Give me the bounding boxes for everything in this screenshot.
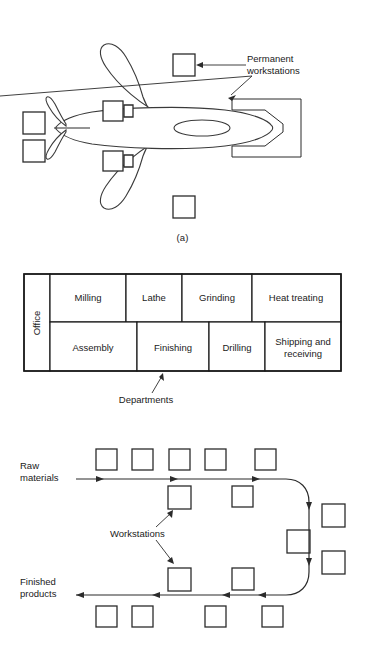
figure-a-caption: (a) [0,232,365,243]
annotation-line-2: workstations [246,65,300,76]
figure-c-canvas: Raw materials Finished products Workstat… [0,420,365,662]
finished-products-line2: products [20,588,57,599]
permanent-workstations-annotation: Permanent workstations [0,53,300,101]
arrowhead [167,557,174,564]
arrowhead [252,476,260,482]
finished-products-line1: Finished [20,576,56,587]
arrowhead [228,95,236,101]
workstation-box[interactable] [23,140,45,162]
annotation-line-1: Permanent [247,53,294,64]
finished-products-label: Finished products [20,576,57,599]
workstation-row-top [96,449,276,470]
workstation-box[interactable] [322,504,345,527]
department-label-heat-treating: Heat treating [269,292,323,303]
workstation-box[interactable] [232,486,253,507]
department-label-grinding: Grinding [199,292,235,303]
arrowhead [167,510,173,518]
workstation-box[interactable] [96,449,117,470]
workstations-annotation: Workstations [110,510,174,564]
workstation-box[interactable] [262,606,283,627]
workstation-column-right [287,504,345,574]
workstation-box[interactable] [205,606,226,627]
raw-materials-line1: Raw [20,460,39,471]
workstation-box[interactable] [103,151,123,171]
figure-c-product-layout: Raw materials Finished products Workstat… [0,420,365,662]
workstation-box[interactable] [255,449,276,470]
department-label-shipping-line1: Shipping and [275,336,330,347]
arrowhead [222,592,230,598]
arrowhead [152,592,160,598]
department-label-milling: Milling [75,292,102,303]
arrowhead [258,592,266,598]
arrowhead [96,476,104,482]
arrowhead [306,558,312,566]
workstation-box[interactable] [232,568,254,590]
workstation-box[interactable] [168,568,191,591]
workstation-box[interactable] [169,449,190,470]
workstation-box[interactable] [103,101,123,121]
workstation-row-inner-upper [168,486,253,509]
department-label-drilling: Drilling [222,342,251,353]
annotation-workstations: Workstations [110,528,165,539]
department-label-lathe: Lathe [142,292,166,303]
department-label-finishing: Finishing [154,342,192,353]
workstation-box[interactable] [96,606,117,627]
workstation-box[interactable] [287,530,310,553]
annotation-departments: Departments [119,394,174,405]
workstation-box[interactable] [168,486,191,509]
department-label-assembly: Assembly [72,342,113,353]
figure-a-fixed-position-layout: Permanent workstations (a) [0,0,365,255]
department-label-office: Office [31,311,42,336]
department-label-shipping-line2: receiving [284,348,322,359]
figure-b-process-layout: Office Milling Lathe Grinding Heat treat… [0,255,365,420]
departments-annotation: Departments [119,373,174,405]
raw-materials-label: Raw materials [20,460,59,483]
workstation-box[interactable] [322,551,345,574]
raw-materials-line2: materials [20,472,59,483]
figure-b-canvas: Office Milling Lathe Grinding Heat treat… [0,255,365,420]
workstation-box[interactable] [173,54,195,76]
arrowhead [196,62,203,68]
arrowhead [170,476,178,482]
arrowhead [306,502,312,510]
figure-a-canvas: Permanent workstations [0,0,365,255]
workstation-box[interactable] [173,196,195,218]
workstation-box[interactable] [132,449,153,470]
workstation-connector[interactable] [124,105,133,117]
workstation-box[interactable] [23,112,45,134]
workstation-box[interactable] [205,449,226,470]
workstation-row-bottom [96,606,283,627]
arrowhead [76,592,84,598]
workstation-connector[interactable] [124,155,133,167]
workstation-row-inner-lower [168,568,254,591]
aircraft-outline [46,44,273,210]
workstation-box[interactable] [132,606,153,627]
